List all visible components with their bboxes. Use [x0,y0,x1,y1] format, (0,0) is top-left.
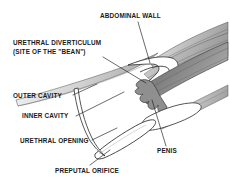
label-urethral-diverticulum-line2: (SITE OF THE "BEAN") [13,48,101,57]
label-urethral-diverticulum-line1: URETHRAL DIVERTICULUM [13,39,101,48]
label-urethral-diverticulum: URETHRAL DIVERTICULUM (SITE OF THE "BEAN… [13,39,101,57]
label-penis: PENIS [157,147,177,156]
label-urethral-opening: URETHRAL OPENING [20,137,89,146]
label-outer-cavity: OUTER CAVITY [13,92,62,101]
label-inner-cavity: INNER CAVITY [22,112,68,121]
leader-abdominal-wall [138,22,150,63]
label-abdominal-wall: ABDOMINAL WALL [100,12,161,21]
preputal-orifice-structure [95,120,156,159]
urethral-channel [74,88,105,156]
leader-urethral-opening [92,128,117,140]
anatomical-figure: ABDOMINAL WALL URETHRAL DIVERTICULUM (SI… [0,0,230,189]
label-preputal-orifice: PREPUTAL ORIFICE [55,167,119,176]
leader-inner-cavity [76,92,124,116]
